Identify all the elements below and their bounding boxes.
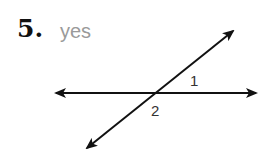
intersecting-lines-diagram: 1 2: [0, 0, 278, 151]
angle-label-2: 2: [151, 102, 159, 119]
angle-label-1: 1: [190, 72, 198, 89]
transversal-line: [87, 31, 233, 148]
